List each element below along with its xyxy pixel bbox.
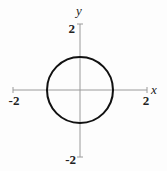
x-max-tick-label: 2 [143,93,150,108]
y-axis-label: y [74,3,82,18]
y-max-tick-label: 2 [69,21,76,36]
circle-plot: y x 2 -2 -2 2 [0,0,167,171]
y-min-tick-label: -2 [65,152,76,167]
x-axis-label: x [150,82,157,97]
x-min-tick-label: -2 [9,93,20,108]
